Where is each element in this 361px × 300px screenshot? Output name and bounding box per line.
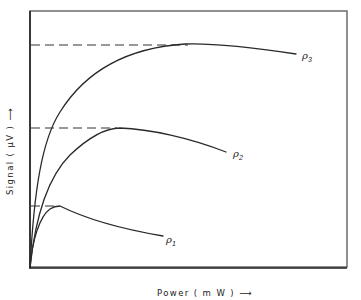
p1-curve	[30, 206, 163, 268]
p2-curve	[30, 128, 226, 268]
p3-label: ρ3	[301, 50, 312, 63]
p2-label: ρ2	[232, 148, 243, 161]
chart: ρ3 ρ2 ρ1 Power ( m W ) ⟶ Signal ( μV ) ⟶	[0, 0, 361, 300]
p1-label: ρ1	[165, 234, 176, 247]
y-axis-title: Signal ( μV ) ⟶	[5, 107, 15, 195]
x-axis-title: Power ( m W ) ⟶	[157, 288, 253, 298]
